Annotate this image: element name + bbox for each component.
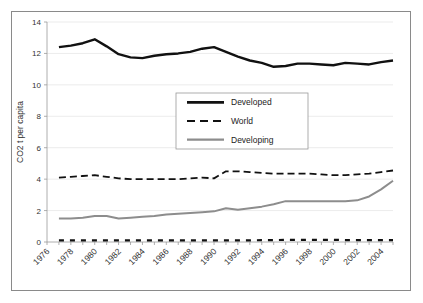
y-axis: 02468101214	[32, 18, 47, 247]
y-tick-label-2: 2	[37, 207, 42, 216]
chart-figure: 02468101214CO2 t per capita1976197819801…	[0, 0, 423, 303]
y-tick-label-12: 12	[32, 49, 41, 58]
y-tick-label-10: 10	[32, 81, 41, 90]
x-axis: 1976197819801982198419861988199019921994…	[31, 242, 393, 267]
legend-label-developed: Developed	[231, 97, 272, 107]
series-line-developing	[59, 181, 393, 219]
x-tick-label-1980: 1980	[79, 246, 100, 267]
legend-label-world: World	[231, 116, 253, 126]
x-tick-label-2004: 2004	[365, 246, 386, 267]
x-tick-label-2000: 2000	[317, 246, 338, 267]
line-chart: 02468101214CO2 t per capita1976197819801…	[0, 0, 423, 303]
x-tick-label-1996: 1996	[270, 246, 291, 267]
y-tick-label-4: 4	[37, 175, 42, 184]
chart-legend: DevelopedWorldDeveloping	[176, 93, 308, 149]
x-tick-label-1986: 1986	[150, 246, 171, 267]
x-tick-label-1990: 1990	[198, 246, 219, 267]
x-tick-label-2002: 2002	[341, 246, 362, 267]
x-tick-label-1992: 1992	[222, 246, 243, 267]
x-tick-label-1984: 1984	[126, 246, 147, 267]
y-tick-label-14: 14	[32, 18, 41, 27]
x-tick-label-1982: 1982	[103, 246, 124, 267]
x-tick-label-1994: 1994	[246, 246, 267, 267]
x-tick-label-1978: 1978	[55, 246, 76, 267]
y-tick-label-8: 8	[37, 112, 42, 121]
legend-label-developing: Developing	[231, 135, 274, 145]
y-axis-title: CO2 t per capita	[15, 101, 25, 163]
y-tick-label-6: 6	[37, 144, 42, 153]
x-tick-label-1976: 1976	[31, 246, 52, 267]
series-line-world	[59, 171, 393, 180]
series-line-developed	[59, 39, 393, 67]
y-tick-label-0: 0	[37, 238, 42, 247]
series-line-baseline	[59, 240, 393, 241]
x-tick-label-1988: 1988	[174, 246, 195, 267]
x-tick-label-1998: 1998	[293, 246, 314, 267]
